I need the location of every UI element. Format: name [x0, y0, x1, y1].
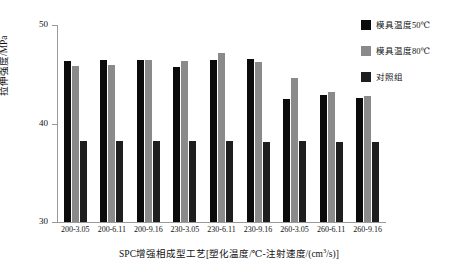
x-tick-label: 260-3.05	[277, 225, 313, 234]
tensile-strength-bar-chart: 50 40 30 拉伸强度/MPa 200-3.05200-6.11200-9.…	[0, 0, 458, 273]
x-tick-labels: 200-3.05200-6.11200-9.16230-3.05230-6.11…	[57, 225, 386, 234]
bar	[226, 141, 233, 222]
bar	[173, 67, 180, 222]
bar	[189, 141, 196, 222]
chart-legend: 模具温度50℃模具温度80℃对照组	[361, 20, 430, 82]
bar	[145, 60, 152, 222]
x-tick-label: 230-3.05	[167, 225, 203, 234]
bar	[320, 95, 327, 222]
bar-group	[210, 25, 233, 222]
bar-groups	[57, 25, 386, 222]
bar	[108, 65, 115, 222]
bar	[181, 61, 188, 222]
legend-swatch-icon	[361, 46, 371, 56]
bar	[137, 60, 144, 222]
x-tick-label: 230-6.11	[203, 225, 239, 234]
y-tick-30	[52, 222, 58, 223]
bar	[336, 142, 343, 222]
x-tick-label: 200-9.16	[130, 225, 166, 234]
x-tick-label: 260-6.11	[313, 225, 349, 234]
bar	[100, 60, 107, 222]
bar	[72, 66, 79, 222]
x-tick-label: 200-6.11	[94, 225, 130, 234]
bar	[218, 53, 225, 222]
x-tick-label: 230-9.16	[240, 225, 276, 234]
bar	[153, 141, 160, 222]
bar-group	[320, 25, 343, 222]
bar	[372, 142, 379, 222]
y-tick-label-30: 30	[26, 217, 48, 226]
bar-group	[100, 25, 123, 222]
legend-swatch-icon	[361, 72, 371, 82]
x-tick-label: 260-9.16	[350, 225, 386, 234]
bar	[116, 141, 123, 222]
x-axis-title-main: SPC增强相成型工艺[塑化温度/℃-注射速度/(cm	[119, 249, 323, 259]
bar-group	[64, 25, 87, 222]
bar	[64, 61, 71, 222]
bar	[283, 99, 290, 222]
x-axis-title: SPC增强相成型工艺[塑化温度/℃-注射速度/(cm3/s)]	[0, 246, 458, 260]
legend-item: 对照组	[361, 72, 430, 82]
y-tick-label-40: 40	[26, 119, 48, 128]
bar	[263, 142, 270, 222]
bar-group	[247, 25, 270, 222]
legend-item-label: 模具温度80℃	[376, 46, 430, 56]
bar	[210, 60, 217, 222]
legend-item-label: 对照组	[376, 72, 403, 82]
bar	[291, 78, 298, 222]
x-tick-label: 200-3.05	[57, 225, 93, 234]
bar	[299, 141, 306, 222]
legend-item-label: 模具温度50℃	[376, 20, 430, 30]
y-tick-label-50: 50	[26, 20, 48, 29]
bar-group	[283, 25, 306, 222]
bar	[255, 62, 262, 222]
bar	[364, 96, 371, 222]
x-axis-title-tail: /s)]	[326, 249, 339, 259]
legend-item: 模具温度80℃	[361, 46, 430, 56]
bar-group	[173, 25, 196, 222]
legend-swatch-icon	[361, 20, 371, 30]
legend-item: 模具温度50℃	[361, 20, 430, 30]
bar-group	[137, 25, 160, 222]
bar	[247, 59, 254, 222]
y-axis-title: 拉伸强度/MPa	[0, 0, 10, 96]
bar	[80, 141, 87, 222]
bar	[328, 92, 335, 222]
x-axis-line	[57, 222, 386, 223]
bar	[356, 98, 363, 222]
